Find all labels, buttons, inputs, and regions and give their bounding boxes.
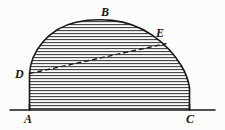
vertex-label-a: A bbox=[24, 113, 32, 125]
vertex-label-d: D bbox=[15, 68, 24, 80]
vertex-label-e: E bbox=[156, 27, 164, 39]
figure-canvas bbox=[0, 0, 225, 130]
geometry-figure: A B C D E bbox=[0, 0, 225, 130]
vertex-label-b: B bbox=[101, 6, 109, 18]
vertex-label-c: C bbox=[186, 113, 194, 125]
